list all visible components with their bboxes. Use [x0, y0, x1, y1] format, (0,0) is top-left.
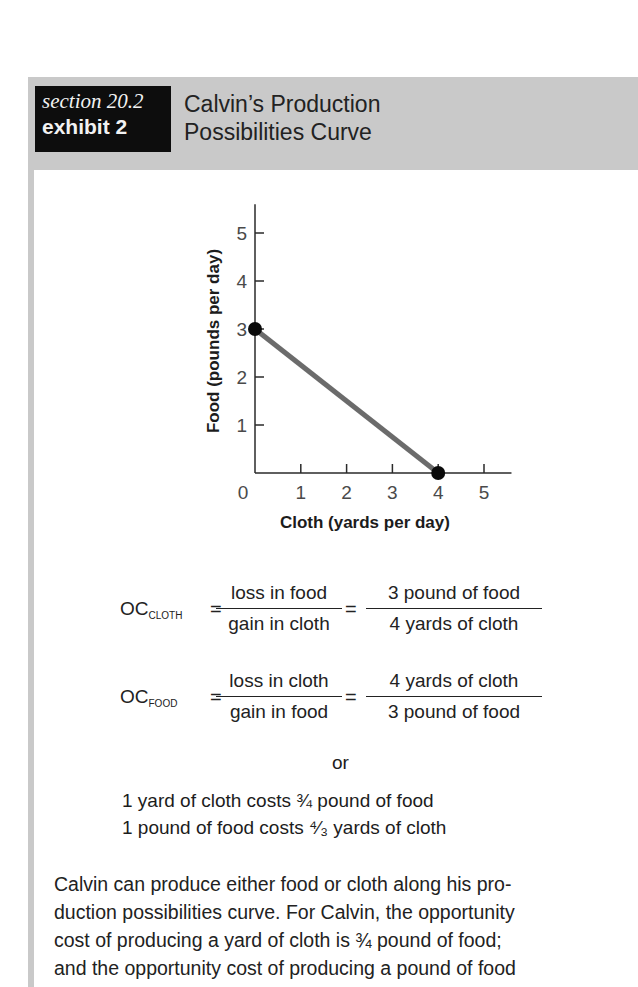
ppc-chart: 01234512345Cloth (yards per day)Food (po…	[0, 0, 638, 560]
x-tick-label: 4	[433, 482, 444, 503]
y-axis-title: Food (pounds per day)	[204, 249, 223, 433]
statement-food-cost: 1 pound of food costs ⁴⁄₃ yards of cloth	[122, 817, 446, 839]
statement-cloth-cost: 1 yard of cloth costs ¾ pound of food	[122, 790, 434, 812]
equals-sign: =	[345, 686, 357, 709]
chart-plot-area: 01234512345Cloth (yards per day)Food (po…	[204, 204, 511, 532]
ppc-line	[255, 329, 438, 473]
fraction-4-cloth-3-food: 4 yards of cloth 3 pound of food	[366, 668, 542, 725]
x-tick-label: 1	[296, 482, 307, 503]
or-separator: or	[332, 752, 349, 774]
ppc-endpoint-marker	[248, 322, 262, 336]
equals-sign: =	[345, 598, 357, 621]
y-tick-label: 3	[236, 319, 247, 340]
x-tick-label: 3	[387, 482, 398, 503]
caption-line: and the opportunity cost of producing a …	[54, 954, 634, 982]
fraction-loss-cloth-gain-food: loss in cloth gain in food	[216, 668, 342, 725]
y-tick-label: 4	[236, 271, 247, 292]
y-tick-label: 2	[236, 367, 247, 388]
y-tick-label: 1	[236, 415, 247, 436]
x-axis-title: Cloth (yards per day)	[280, 513, 450, 532]
y-tick-label: 5	[236, 223, 247, 244]
oc-cloth-label: OCCLOTH	[120, 598, 182, 621]
fraction-3-food-4-cloth: 3 pound of food 4 yards of cloth	[366, 580, 542, 637]
fraction-loss-food-gain-cloth: loss in food gain in cloth	[216, 580, 342, 637]
caption-line: Calvin can produce either food or cloth …	[54, 870, 634, 898]
caption-line: duction possibilities curve. For Calvin,…	[54, 898, 634, 926]
caption-line: cost of producing a yard of cloth is ¾ p…	[54, 926, 634, 954]
oc-food-label: OCFOOD	[120, 686, 177, 709]
ppc-endpoint-marker	[431, 466, 445, 480]
x-tick-label: 2	[341, 482, 352, 503]
caption-paragraph: Calvin can produce either food or cloth …	[54, 870, 634, 982]
x-tick-label: 5	[479, 482, 490, 503]
x-tick-label: 0	[238, 482, 249, 503]
